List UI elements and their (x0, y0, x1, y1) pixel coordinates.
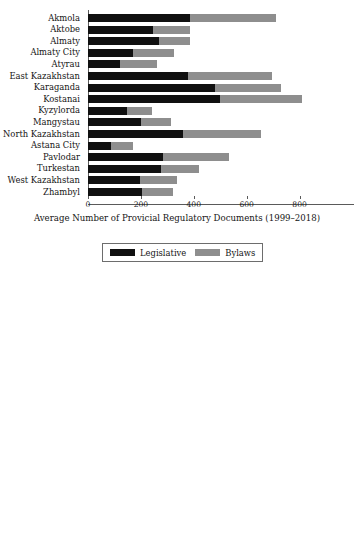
x-axis-tick-mark (194, 196, 195, 199)
bar-row (88, 37, 326, 45)
bar-segment-bylaws (161, 165, 199, 173)
bar-row (88, 60, 326, 68)
x-axis-tick-mark (88, 196, 89, 199)
x-axis-title-top: Average Number of Provicial Regulatory D… (0, 213, 354, 223)
y-axis-tick-label: Almaty City (30, 47, 80, 58)
bar-segment-legislative (88, 84, 215, 92)
bar-segment-legislative (88, 153, 163, 161)
bar-segment-legislative (88, 49, 133, 57)
y-axis-tick-label: Turkestan (37, 163, 80, 174)
y-axis-tick-label: Aktobe (50, 24, 80, 35)
bar-segment-bylaws (215, 84, 281, 92)
plot-area-top (88, 10, 326, 196)
bar-segment-legislative (88, 188, 142, 196)
chart-number-of-documents: AkmolaAktobeAlmatyAlmaty CityAtyrauEast … (0, 0, 354, 268)
bar-segment-legislative (88, 118, 141, 126)
bar-segment-bylaws (127, 107, 152, 115)
bar-row (88, 118, 326, 126)
bar-row (88, 130, 326, 138)
bar-row (88, 84, 326, 92)
y-axis-tick-label: Pavlodar (43, 152, 80, 163)
bar-row (88, 176, 326, 184)
bar-segment-legislative (88, 60, 120, 68)
chart-length-of-documents: AkmolaAktobeAlmatyAlmaty CityAtyrauEast … (0, 268, 354, 536)
bar-segment-bylaws (120, 60, 157, 68)
y-axis-labels-top: AkmolaAktobeAlmatyAlmaty CityAtyrauEast … (0, 10, 84, 196)
bar-row (88, 95, 326, 103)
legend-label-bylaws: Bylaws (225, 248, 255, 258)
x-axis-line-top (88, 204, 354, 205)
bar-row (88, 72, 326, 80)
y-axis-tick-label: Zhambyl (43, 187, 80, 198)
legend-swatch-bylaws-icon (195, 249, 220, 256)
y-axis-tick-label: Astana City (31, 140, 80, 151)
bar-segment-legislative (88, 176, 140, 184)
y-axis-tick-label: Almaty (50, 36, 80, 47)
legend-item-bylaws-top: Bylaws (195, 248, 255, 258)
y-axis-tick-label: Atyrau (52, 59, 80, 70)
bars-container-top (88, 10, 326, 196)
bar-segment-legislative (88, 95, 220, 103)
y-axis-tick-label: Akmola (48, 13, 80, 24)
y-axis-tick-label: Karaganda (34, 82, 80, 93)
bar-segment-legislative (88, 72, 188, 80)
bar-segment-bylaws (133, 49, 174, 57)
bar-segment-legislative (88, 14, 190, 22)
bar-segment-legislative (88, 37, 159, 45)
bar-segment-bylaws (111, 142, 133, 150)
bar-row (88, 188, 326, 196)
y-axis-tick-label: Kyzylorda (38, 105, 80, 116)
bar-segment-bylaws (188, 72, 272, 80)
bar-segment-bylaws (163, 153, 229, 161)
bar-row (88, 49, 326, 57)
x-axis-tick-label: 200 (134, 200, 149, 209)
bar-segment-legislative (88, 107, 127, 115)
figure-root: AkmolaAktobeAlmatyAlmaty CityAtyrauEast … (0, 0, 354, 536)
bar-segment-legislative (88, 142, 111, 150)
y-axis-tick-label: North Kazakhstan (3, 129, 80, 140)
bar-segment-legislative (88, 130, 183, 138)
bar-segment-bylaws (142, 188, 173, 196)
y-axis-tick-label: Mangystau (33, 117, 80, 128)
x-axis-tick-label: 0 (86, 200, 91, 209)
x-axis-tick-mark (300, 196, 301, 199)
y-axis-tick-label: East Kazakhstan (9, 71, 80, 82)
bar-row (88, 153, 326, 161)
legend-top: Legislative Bylaws (102, 243, 263, 262)
bar-segment-bylaws (159, 37, 189, 45)
bar-row (88, 14, 326, 22)
bar-segment-bylaws (153, 26, 191, 34)
bar-segment-legislative (88, 165, 161, 173)
bar-row (88, 26, 326, 34)
bar-segment-bylaws (183, 130, 261, 138)
x-axis-tick-mark (247, 196, 248, 199)
bar-segment-bylaws (190, 14, 276, 22)
x-axis-tick-label: 800 (292, 200, 307, 209)
bar-segment-legislative (88, 26, 153, 34)
bar-segment-bylaws (220, 95, 302, 103)
legend-swatch-legislative-icon (110, 249, 135, 256)
bar-row (88, 165, 326, 173)
legend-item-legislative-top: Legislative (110, 248, 186, 258)
bar-row (88, 142, 326, 150)
x-axis-tick-label: 400 (187, 200, 202, 209)
bar-row (88, 107, 326, 115)
legend-label-legislative: Legislative (140, 248, 186, 258)
y-axis-tick-label: Kostanai (43, 94, 80, 105)
bar-segment-bylaws (140, 176, 177, 184)
x-axis-tick-label: 600 (239, 200, 254, 209)
y-axis-tick-label: West Kazakhstan (8, 175, 80, 186)
bar-segment-bylaws (141, 118, 171, 126)
x-axis-tick-mark (141, 196, 142, 199)
